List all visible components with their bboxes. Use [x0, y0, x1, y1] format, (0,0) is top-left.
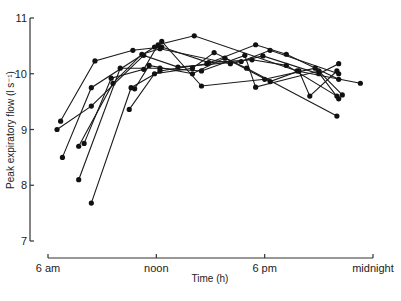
data-point	[76, 144, 81, 149]
y-axis-title: Peak expiratory flow (l s⁻¹)	[5, 71, 16, 189]
data-point	[132, 86, 137, 91]
data-point	[127, 107, 132, 112]
data-point	[54, 127, 59, 132]
x-tick-label: noon	[144, 262, 168, 274]
y-tick-label: 9	[21, 124, 27, 136]
data-point	[60, 155, 65, 160]
data-point	[192, 33, 197, 38]
data-point	[147, 63, 152, 68]
data-point	[82, 141, 87, 146]
data-point	[253, 85, 258, 90]
data-point	[130, 48, 135, 53]
data-point	[336, 77, 341, 82]
y-tick-label: 10	[15, 68, 27, 80]
data-point	[76, 177, 81, 182]
data-point	[340, 92, 345, 97]
data-point	[190, 71, 195, 76]
pef-chart: 7891011 6 amnoon6 pmmidnight Time (h) Pe…	[0, 0, 401, 301]
data-point	[267, 79, 272, 84]
data-point	[89, 85, 94, 90]
data-point	[284, 52, 289, 57]
data-point	[139, 52, 144, 57]
data-point	[89, 103, 94, 108]
data-point	[156, 42, 161, 47]
series-line	[82, 33, 363, 146]
data-point	[296, 68, 301, 73]
y-tick-label: 8	[21, 179, 27, 191]
data-point	[260, 53, 265, 58]
data-point	[58, 119, 63, 124]
data-point	[92, 58, 97, 63]
x-axis-title: Time (h)	[192, 273, 229, 284]
data-point	[152, 71, 157, 76]
y-tick-label: 7	[21, 235, 27, 247]
data-point	[190, 66, 195, 71]
series-line	[58, 44, 339, 123]
x-axis: 6 amnoon6 pmmidnight	[36, 254, 394, 274]
series-layer	[54, 33, 363, 205]
data-point	[89, 200, 94, 205]
x-tick-label: midnight	[352, 262, 394, 274]
data-point	[253, 42, 258, 47]
data-point	[242, 53, 247, 58]
y-axis: 7891011	[15, 12, 34, 247]
x-tick-label: 6 am	[36, 262, 60, 274]
data-point	[358, 81, 363, 86]
x-tick-label: 6 pm	[252, 262, 276, 274]
data-point	[118, 66, 123, 71]
y-tick-label: 11	[16, 12, 27, 24]
data-point	[334, 68, 339, 73]
data-point	[222, 56, 227, 61]
data-point	[307, 93, 312, 98]
data-point	[334, 114, 339, 119]
data-point	[336, 96, 341, 101]
data-point	[109, 76, 114, 81]
data-point	[212, 50, 217, 55]
data-point	[199, 83, 204, 88]
data-point	[336, 61, 341, 66]
